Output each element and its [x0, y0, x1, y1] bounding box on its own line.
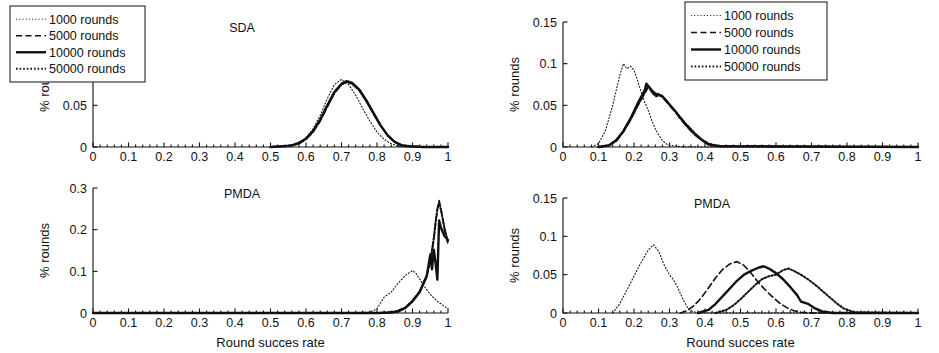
y-tick-label: 0.15	[533, 192, 557, 206]
x-tick-label: 0.6	[767, 316, 784, 330]
x-tick-label: 0.9	[874, 316, 891, 330]
y-axis-title: % rounds	[37, 223, 52, 278]
x-tick-label: 0.6	[767, 150, 784, 164]
series-line-fine-dotted	[93, 271, 448, 314]
series-line-dashed	[93, 201, 448, 314]
figure-root: 00.10.20.30.40.50.60.70.80.9100.050.10.1…	[0, 0, 939, 353]
y-tick-label: 0	[550, 141, 557, 155]
legend-label: 50000 rounds	[724, 60, 800, 74]
x-tick-label: 0.5	[262, 150, 279, 164]
series-line-dashed	[271, 82, 449, 147]
y-tick-label: 0.1	[540, 57, 557, 71]
series-line-fine-dotted	[613, 245, 918, 313]
x-tick-label: 0.1	[590, 316, 607, 330]
x-tick-label: 0.6	[297, 150, 314, 164]
y-tick-label: 0.2	[70, 223, 87, 237]
y-tick-label: 0.05	[533, 99, 557, 113]
x-tick-label: 0.3	[661, 150, 678, 164]
series-line-solid	[93, 221, 448, 314]
x-tick-label: 0.8	[368, 150, 385, 164]
axis-spines	[93, 188, 448, 313]
panel-title: PMDA	[694, 197, 731, 211]
y-tick-label: 0.1	[540, 230, 557, 244]
x-tick-label: 0.9	[874, 150, 891, 164]
axis-spines	[563, 198, 918, 313]
x-tick-label: 0.8	[838, 316, 855, 330]
y-tick-label: 0.15	[533, 16, 557, 30]
x-tick-label: 0.2	[625, 316, 642, 330]
x-tick-label: 0.9	[404, 316, 421, 330]
x-tick-label: 1	[915, 150, 922, 164]
x-tick-label: 0	[560, 316, 567, 330]
x-tick-label: 0.4	[696, 316, 713, 330]
y-axis-title: % rounds	[507, 228, 522, 283]
legend-label: 50000 rounds	[49, 62, 125, 76]
axis-spines	[93, 22, 448, 147]
x-tick-label: 0.3	[191, 150, 208, 164]
x-tick-label: 0.1	[120, 316, 137, 330]
x-tick-label: 0.1	[590, 150, 607, 164]
x-tick-label: 0.5	[732, 316, 749, 330]
x-tick-label: 0.6	[297, 316, 314, 330]
x-tick-label: 0.5	[262, 316, 279, 330]
x-tick-label: 0.8	[368, 316, 385, 330]
x-tick-label: 0	[560, 150, 567, 164]
x-tick-label: 1	[445, 150, 452, 164]
y-tick-label: 0.05	[63, 99, 87, 113]
chart-panel-top-right: 00.10.20.30.40.50.60.70.80.9100.050.10.1…	[470, 0, 939, 177]
legend-label: 10000 rounds	[49, 46, 125, 60]
x-tick-label: 0.2	[155, 150, 172, 164]
x-tick-label: 0	[90, 150, 97, 164]
x-tick-label: 0.7	[333, 150, 350, 164]
x-tick-label: 0.7	[333, 316, 350, 330]
x-tick-label: 1	[915, 316, 922, 330]
x-tick-label: 0.9	[404, 150, 421, 164]
y-tick-label: 0	[80, 141, 87, 155]
x-tick-label: 0.2	[625, 150, 642, 164]
y-tick-label: 0.05	[533, 268, 557, 282]
series-line-dashed	[680, 262, 918, 313]
y-tick-label: 0.3	[70, 182, 87, 196]
legend-label: 5000 rounds	[49, 29, 119, 43]
x-tick-label: 0.4	[226, 150, 243, 164]
x-tick-label: 0.8	[838, 150, 855, 164]
y-tick-label: 0	[550, 307, 557, 321]
x-tick-label: 0.7	[803, 316, 820, 330]
x-tick-label: 0.3	[191, 316, 208, 330]
x-tick-label: 0	[90, 316, 97, 330]
x-tick-label: 0.1	[120, 150, 137, 164]
x-tick-label: 0.4	[696, 150, 713, 164]
chart-panel-bottom-left: 00.10.20.30.40.50.60.70.80.9100.10.20.3%…	[0, 176, 470, 353]
panel-title: SDA	[229, 21, 255, 35]
legend-label: 1000 rounds	[724, 9, 794, 23]
y-tick-label: 0.1	[70, 265, 87, 279]
x-tick-label: 0.7	[803, 150, 820, 164]
series-line-dashed	[599, 87, 919, 147]
chart-panel-top-left: 00.10.20.30.40.50.60.70.80.9100.050.10.1…	[0, 0, 470, 177]
legend-label: 5000 rounds	[724, 26, 794, 40]
x-tick-label: 1	[445, 316, 452, 330]
y-tick-label: 0	[80, 307, 87, 321]
series-line-solid	[698, 266, 918, 313]
x-axis-title: Round succes rate	[216, 335, 324, 350]
legend: 1000 rounds5000 rounds10000 rounds50000 …	[685, 2, 827, 80]
x-tick-label: 0.5	[732, 150, 749, 164]
x-axis-title: Round succes rate	[686, 335, 794, 350]
series-line-thick-dotted	[716, 269, 918, 313]
panel-title: PMDA	[224, 187, 261, 201]
series-line-solid	[599, 84, 919, 147]
x-tick-label: 0.3	[661, 316, 678, 330]
x-tick-label: 0.4	[226, 316, 243, 330]
chart-panel-bottom-right: 00.10.20.30.40.50.60.70.80.9100.050.10.1…	[470, 176, 939, 353]
legend-label: 10000 rounds	[724, 43, 800, 57]
x-tick-label: 0.2	[155, 316, 172, 330]
series-line-thick-dotted	[93, 203, 448, 313]
legend: 1000 rounds5000 rounds10000 rounds50000 …	[10, 6, 145, 82]
legend-label: 1000 rounds	[49, 13, 119, 27]
y-axis-title: % rounds	[507, 57, 522, 112]
series-line-thick-dotted	[599, 86, 919, 147]
